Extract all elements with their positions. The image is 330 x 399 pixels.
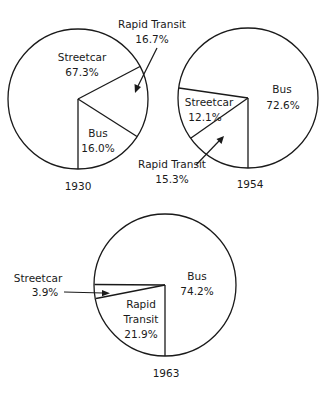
pie-1963-rapid-value: 21.9% bbox=[124, 328, 157, 340]
pie-charts-figure: Streetcar 67.3% Bus 16.0% Rapid Transit … bbox=[0, 0, 330, 399]
pie-1954-rapid-arrow bbox=[196, 136, 224, 165]
pie-1954-streetcar-label: Streetcar bbox=[185, 96, 234, 108]
pie-1963-divider-streetcar-bus bbox=[95, 285, 166, 286]
pie-1963-rapid-label-line2: Transit bbox=[123, 313, 159, 325]
pie-1963-bus-value: 74.2% bbox=[180, 285, 213, 297]
pie-1963-bus-label: Bus bbox=[187, 270, 206, 282]
pie-1954-streetcar-value: 12.1% bbox=[188, 111, 221, 123]
pie-1930-bus-value: 16.0% bbox=[81, 142, 114, 154]
pie-1954: Bus 72.6% Streetcar 12.1% Rapid Transit … bbox=[138, 28, 318, 190]
pie-1963: Bus 74.2% Rapid Transit 21.9% Streetcar … bbox=[14, 214, 236, 379]
pie-1930-streetcar-label: Streetcar bbox=[58, 51, 107, 63]
pie-1954-rapid-value: 15.3% bbox=[155, 173, 188, 185]
pie-1930-year: 1930 bbox=[65, 180, 92, 192]
pie-1930-rapid-label: Rapid Transit bbox=[118, 18, 186, 30]
pie-1963-streetcar-label: Streetcar bbox=[14, 272, 63, 284]
pie-1963-streetcar-arrow bbox=[64, 290, 110, 296]
pie-1963-rapid-label-line1: Rapid bbox=[126, 298, 156, 310]
pie-1954-year: 1954 bbox=[237, 178, 264, 190]
pie-1954-bus-label: Bus bbox=[272, 83, 291, 95]
pie-1930-bus-label: Bus bbox=[88, 127, 107, 139]
pie-1963-streetcar-value: 3.9% bbox=[32, 286, 59, 298]
pie-1963-divider-rapid-streetcar bbox=[96, 285, 165, 299]
pie-1963-year: 1963 bbox=[153, 367, 180, 379]
pie-1930-rapid-arrow bbox=[135, 48, 158, 93]
pie-1954-bus-value: 72.6% bbox=[266, 99, 299, 111]
pie-1954-rapid-label: Rapid Transit bbox=[138, 158, 206, 170]
pie-1930-streetcar-value: 67.3% bbox=[65, 66, 98, 78]
pie-1930-rapid-value: 16.7% bbox=[135, 33, 168, 45]
